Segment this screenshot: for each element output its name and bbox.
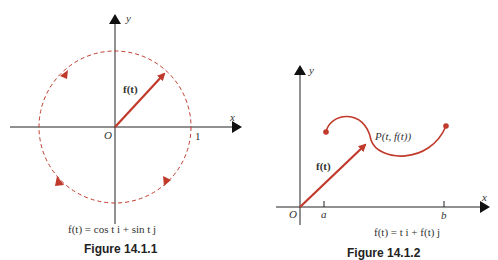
y-axis-arrow-icon [109,14,121,24]
origin-label: O [289,208,297,220]
x-axis-label: x [482,191,487,203]
direction-arrow-icon [55,176,64,186]
curve-end-point [443,123,449,129]
origin-label: O [104,129,112,141]
tick-a-label: a [321,208,327,220]
figure-2-diagram [276,65,490,225]
figure-1-diagram [10,14,242,224]
point-label: P(t, f(t)) [375,130,411,142]
tick-b-label: b [441,209,447,221]
y-axis-label: y [126,12,131,24]
direction-arrow-icon [60,70,68,79]
y-axis-label: y [309,64,314,76]
equation-label: f(t) = cos t i + sin t j [68,223,156,235]
figure-caption: Figure 14.1.2 [347,246,420,260]
equation-label: f(t) = t i + f(t) j [374,226,440,238]
figures-canvas [0,0,498,260]
vector-f-t [115,74,164,127]
x-axis-label: x [230,111,235,123]
figure-caption: Figure 14.1.1 [84,242,157,256]
tick-1-label: 1 [195,130,201,142]
direction-arrow-icon [163,176,171,186]
y-axis-arrow-icon [294,65,306,75]
curve-start-point [323,129,329,135]
vector-label: f(t) [316,160,331,172]
vector-f-t [300,145,365,207]
vector-label: f(t) [123,83,138,95]
